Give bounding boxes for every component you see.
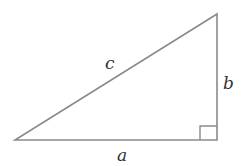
label-hypotenuse-c: c — [105, 53, 115, 73]
right-angle-marker — [200, 126, 217, 140]
label-leg-b: b — [223, 73, 234, 93]
right-triangle-diagram: c b a — [0, 0, 245, 166]
triangle-outline — [15, 14, 217, 140]
label-leg-a: a — [117, 145, 127, 165]
